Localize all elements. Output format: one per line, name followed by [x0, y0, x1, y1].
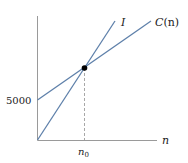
y-tick-5000: 5000	[6, 95, 31, 106]
n0-label: n0	[78, 146, 89, 159]
break-even-diagram: I C(n) 5000 n n0	[0, 0, 188, 163]
x-axis-label: n	[162, 134, 169, 147]
cost-line-label: C(n)	[155, 16, 179, 29]
break-even-point	[82, 65, 88, 71]
income-line-label: I	[120, 16, 126, 29]
cost-line	[38, 21, 152, 100]
income-line	[38, 21, 116, 140]
